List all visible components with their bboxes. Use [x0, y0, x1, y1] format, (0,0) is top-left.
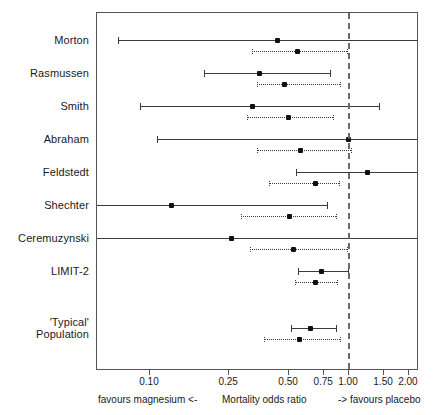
x-axis-tick-label: 0.50: [278, 376, 297, 387]
reference-line-1.00: [348, 13, 350, 369]
x-axis-tick: [408, 370, 409, 375]
x-axis-tick: [323, 370, 324, 375]
study-label: Morton: [54, 34, 89, 46]
caption-favours-placebo: -> favours placebo: [338, 394, 421, 405]
study-label: 'Typical' Population: [36, 316, 89, 340]
caption-axis-title: Mortality odds ratio: [222, 394, 306, 405]
study-label: Abraham: [44, 133, 89, 145]
forest-plot-figure: MortonRasmussenSmithAbrahamFeldstedtShec…: [0, 0, 437, 415]
x-axis-tick: [383, 370, 384, 375]
x-axis-tick-label: 2.00: [398, 376, 417, 387]
study-label: Feldstedt: [43, 166, 89, 178]
x-axis-tick-label: 1.00: [338, 376, 357, 387]
study-label: Ceremuzynski: [18, 232, 89, 244]
study-label: LIMIT-2: [51, 265, 89, 277]
caption-favours-magnesium: favours magnesium <-: [98, 394, 197, 405]
x-axis-tick-label: 1.50: [373, 376, 392, 387]
x-axis-tick: [149, 370, 150, 375]
x-axis-tick: [288, 370, 289, 375]
x-axis-tick-label: 0.25: [218, 376, 237, 387]
x-axis-tick-label: 0.75: [313, 376, 332, 387]
study-label: Shechter: [44, 199, 89, 211]
x-axis-tick-label: 0.10: [139, 376, 158, 387]
study-label: Smith: [60, 100, 89, 112]
study-label: Rasmussen: [30, 67, 89, 79]
x-axis-tick: [228, 370, 229, 375]
plot-frame: [96, 12, 418, 370]
x-axis-tick: [348, 370, 349, 375]
